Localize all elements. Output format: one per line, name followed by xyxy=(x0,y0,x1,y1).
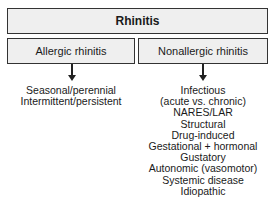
list-item: Idiopathic xyxy=(138,186,268,197)
node-allergic-rhinitis: Allergic rhinitis xyxy=(7,38,135,64)
arrow-down-icon xyxy=(202,64,204,76)
list-item: Autonomic (vasomotor) xyxy=(138,163,268,174)
root-label: Rhinitis xyxy=(116,14,160,28)
root-node-rhinitis: Rhinitis xyxy=(7,8,268,34)
list-item: NARES/LAR xyxy=(138,107,268,118)
list-item: Intermittent/persistent xyxy=(7,96,135,107)
nonallergic-subtypes-list: Infectious (acute vs. chronic) NARES/LAR… xyxy=(138,85,268,197)
allergic-subtypes-list: Seasonal/perennial Intermittent/persiste… xyxy=(7,85,135,107)
arrow-down-icon xyxy=(71,64,73,76)
node-nonallergic-rhinitis: Nonallergic rhinitis xyxy=(138,38,268,64)
allergic-label: Allergic rhinitis xyxy=(36,45,107,57)
nonallergic-label: Nonallergic rhinitis xyxy=(158,45,248,57)
